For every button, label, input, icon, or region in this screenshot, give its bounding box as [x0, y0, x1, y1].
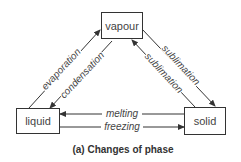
liquid-node: liquid: [16, 108, 60, 134]
freezing-label: freezing: [104, 121, 140, 132]
vapour-label: vapour: [105, 20, 139, 32]
solid-node: solid: [184, 107, 226, 135]
vapour-node: vapour: [101, 12, 143, 39]
melting-label: melting: [106, 108, 139, 119]
liquid-label: liquid: [25, 115, 51, 127]
figure-caption: (a) Changes of phase: [0, 144, 241, 155]
solid-label: solid: [194, 115, 217, 127]
